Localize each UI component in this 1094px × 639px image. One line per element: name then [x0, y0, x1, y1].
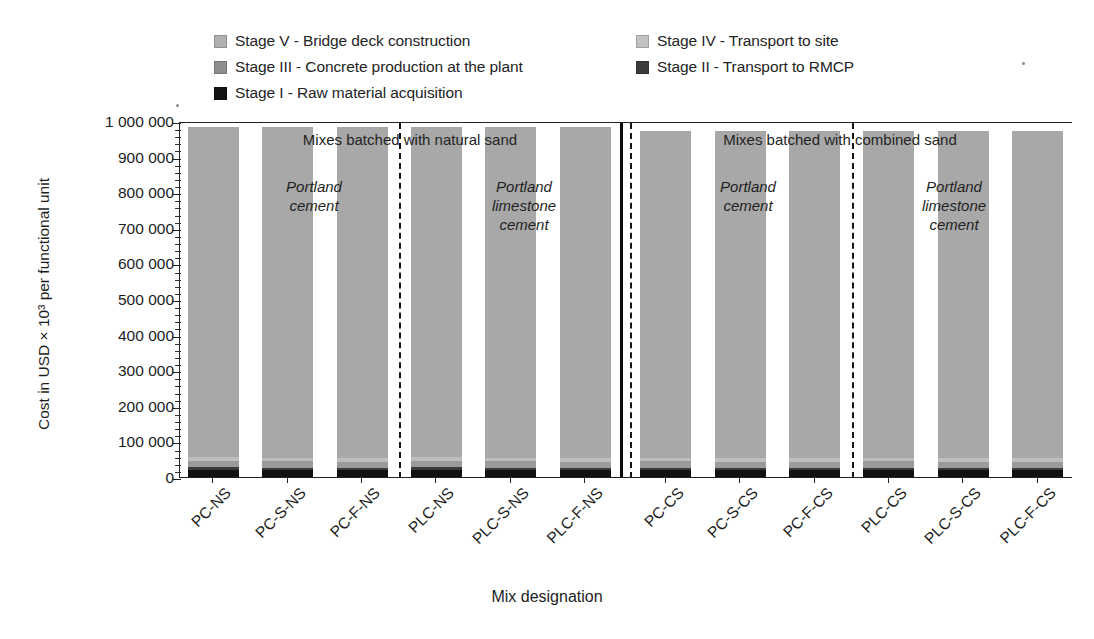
- y-tick-major: [172, 337, 181, 338]
- y-tick-label: 400 000: [54, 327, 174, 345]
- y-tick-major: [172, 265, 181, 266]
- y-tick-minor: [175, 458, 181, 459]
- y-tick-label: 100 000: [54, 433, 174, 451]
- y-tick-minor: [175, 401, 181, 402]
- x-tick: [212, 478, 213, 483]
- y-tick-minor: [175, 216, 181, 217]
- y-tick-minor: [175, 180, 181, 181]
- y-axis-tick-labels: 1 000 000900 000800 000700 000600 000500…: [44, 122, 174, 478]
- x-tick: [962, 478, 963, 483]
- annotation-portland-limestone-combined: Portland limestone cement: [892, 177, 1016, 234]
- bar-pc-ns: [188, 127, 239, 478]
- y-tick-minor: [175, 237, 181, 238]
- sand-type-divider-dashed: [630, 123, 632, 478]
- bar-segment: [863, 458, 914, 462]
- bar-segment: [1012, 462, 1063, 468]
- x-tick-label: PC-NS: [154, 484, 235, 565]
- legend-label: Stage III - Concrete production at the p…: [235, 59, 523, 75]
- bar-segment: [188, 467, 239, 469]
- chart-legend: Stage V - Bridge deck construction Stage…: [214, 28, 914, 106]
- y-tick-minor: [175, 137, 181, 138]
- y-tick-minor: [175, 386, 181, 387]
- legend-label: Stage I - Raw material acquisition: [235, 85, 462, 101]
- plot-area: Mixes batched with natural sand Mixes ba…: [179, 122, 1072, 478]
- x-axis-tick-labels: PC-NSPC-S-NSPC-F-NSPLC-NSPLC-S-NSPLC-F-N…: [179, 478, 1072, 588]
- annotation-portland-limestone-natural: Portland limestone cement: [462, 177, 586, 234]
- y-tick-minor: [175, 144, 181, 145]
- y-tick-minor: [175, 223, 181, 224]
- legend-label: Stage IV - Transport to site: [657, 33, 839, 49]
- x-tick-label: PLC-CS: [830, 484, 911, 565]
- bar-segment: [1012, 468, 1063, 470]
- bar-plc-f-cs: [1012, 131, 1063, 478]
- bar-segment: [863, 461, 914, 467]
- bar-segment: [262, 461, 313, 467]
- y-tick-minor: [175, 465, 181, 466]
- annotation-portland-cement-natural: Portland cement: [254, 177, 374, 215]
- y-tick-minor: [175, 308, 181, 309]
- annotation-line: cement: [254, 196, 374, 215]
- bar-segment: [485, 458, 536, 462]
- x-tick: [739, 478, 740, 483]
- y-tick-minor: [175, 208, 181, 209]
- y-tick-label: 0: [54, 469, 174, 487]
- bar-segment: [715, 458, 766, 462]
- bar-segment: [1012, 458, 1063, 462]
- y-tick-major: [172, 301, 181, 302]
- bar-segment: [938, 462, 989, 468]
- y-tick-minor: [175, 358, 181, 359]
- y-tick-minor: [175, 258, 181, 259]
- annotation-line: Portland: [892, 177, 1016, 196]
- bar-segment: [411, 127, 462, 457]
- x-tick-label: PLC-S-NS: [452, 484, 533, 565]
- y-tick-major: [172, 372, 181, 373]
- annotation-line: cement: [892, 215, 1016, 234]
- legend-item-stage-iii: Stage III - Concrete production at the p…: [214, 54, 523, 80]
- x-tick: [287, 478, 288, 483]
- annotation-line: limestone: [892, 196, 1016, 215]
- legend-label: Stage II - Transport to RMCP: [657, 59, 854, 75]
- annotation-line: limestone: [462, 196, 586, 215]
- legend-item-stage-ii: Stage II - Transport to RMCP: [636, 54, 854, 80]
- bar-segment: [188, 461, 239, 467]
- x-tick-label: PC-S-CS: [681, 484, 762, 565]
- bar-plc-ns: [411, 127, 462, 478]
- bar-segment: [640, 458, 691, 462]
- x-tick-label: PC-CS: [607, 484, 688, 565]
- y-tick-minor: [175, 351, 181, 352]
- bar-segment: [337, 468, 388, 470]
- y-tick-minor: [175, 187, 181, 188]
- artifact-speck: [176, 104, 179, 107]
- y-tick-major: [172, 230, 181, 231]
- bar-segment: [938, 458, 989, 462]
- legend-swatch-icon: [214, 61, 227, 74]
- y-tick-minor: [175, 429, 181, 430]
- y-tick-label: 200 000: [54, 398, 174, 416]
- annotation-line: Portland: [688, 177, 808, 196]
- legend-column-right: Stage IV - Transport to site Stage II - …: [636, 28, 854, 80]
- y-tick-minor: [175, 422, 181, 423]
- y-tick-minor: [175, 294, 181, 295]
- x-tick-label: PLC-NS: [378, 484, 459, 565]
- bar-segment: [938, 468, 989, 470]
- legend-item-stage-i: Stage I - Raw material acquisition: [214, 80, 523, 106]
- x-axis-title: Mix designation: [0, 588, 1094, 606]
- legend-column-left: Stage V - Bridge deck construction Stage…: [214, 28, 523, 106]
- y-tick-major: [172, 159, 181, 160]
- legend-swatch-icon: [636, 35, 649, 48]
- y-tick-minor: [175, 436, 181, 437]
- legend-swatch-icon: [214, 35, 227, 48]
- legend-label: Stage V - Bridge deck construction: [235, 33, 470, 49]
- y-tick-minor: [175, 173, 181, 174]
- bar-segment: [640, 468, 691, 470]
- y-tick-label: 700 000: [54, 220, 174, 238]
- bar-segment: [188, 457, 239, 461]
- bar-segment: [640, 461, 691, 467]
- x-tick: [1037, 478, 1038, 483]
- bar-segment: [411, 457, 462, 461]
- x-tick-label: PC-F-NS: [303, 484, 384, 565]
- legend-item-stage-iv: Stage IV - Transport to site: [636, 28, 854, 54]
- bar-segment: [560, 458, 611, 462]
- bar-segment: [485, 461, 536, 467]
- y-tick-minor: [175, 472, 181, 473]
